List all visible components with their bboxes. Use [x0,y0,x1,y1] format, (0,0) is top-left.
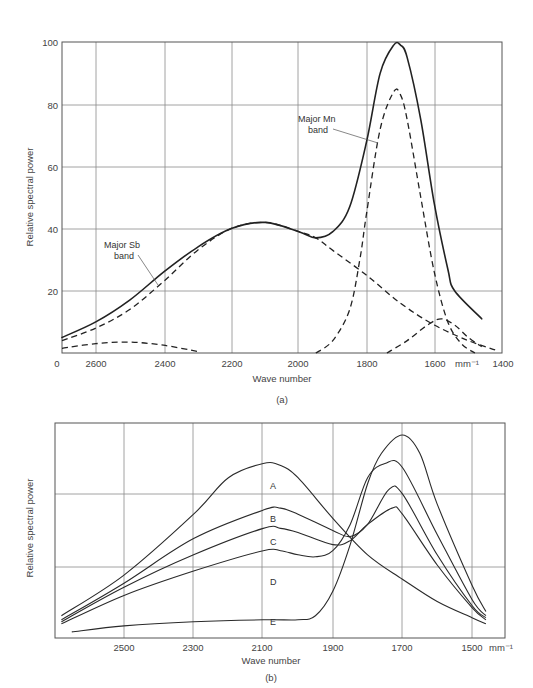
x-tick-1800: 1800 [356,358,377,369]
x-tick-2600: 2600 [85,358,106,369]
curve-label-e: E [270,617,276,627]
x-tick-2500: 2500 [113,642,134,653]
chart-b-grid [55,423,505,638]
sb-leader-line [138,255,158,285]
chart-a-series [62,42,495,353]
x-tick-1500: 1500 [461,642,482,653]
chart-b-ylabel: Relative spectral power [24,479,35,578]
curve-b [61,486,486,620]
series-minor-band-1580- [387,319,482,353]
figure-canvas: Major Sb band Major Mn band 100 80 60 40… [0,0,533,688]
chart-b-frame [55,423,505,638]
series-minor-band-low- [62,342,197,351]
x-tick-1700: 1700 [391,642,412,653]
chart-b-curve-labels: A B C D E [270,481,277,627]
x-unit-label-b: mm⁻¹ [489,642,513,653]
series-total-spectrum [62,42,482,337]
chart-a-ylabel: Relative spectral power [24,148,35,247]
chart-b-x-ticks: 2500 2300 2100 1900 1700 1500 mm⁻¹ [113,642,513,653]
chart-a-frame [62,42,502,353]
chart-a-x-ticks: 0 2600 2400 2200 2000 1800 1600 mm⁻¹ 140… [54,358,513,369]
chart-a-xlabel: Wave number [253,373,312,384]
curve-label-b: B [270,514,276,524]
x-tick-2200: 2200 [221,358,242,369]
chart-b-xlabel: Wave number [242,655,301,666]
y-tick-80: 80 [47,100,58,111]
x-tick-1900: 1900 [322,642,343,653]
curve-label-c: C [270,537,277,547]
x-tick-2000: 2000 [287,358,308,369]
mn-band-label: Major Mn [298,114,336,124]
curve-c [61,507,486,622]
chart-a-grid [62,42,502,353]
x-unit-label: mm⁻¹ [455,358,479,369]
chart-a: Major Sb band Major Mn band 100 80 60 40… [24,37,514,405]
x-tick-1600: 1600 [424,358,445,369]
chart-a-y-ticks: 100 80 60 40 20 [42,37,58,297]
chart-b-series [61,435,486,632]
series-major-mn-band [316,89,475,353]
curve-label-d: D [270,577,277,587]
x-origin-label: 0 [54,358,59,369]
x-tick-1400: 1400 [492,358,513,369]
chart-a-caption: (a) [276,394,288,405]
y-tick-60: 60 [47,162,58,173]
x-tick-2100: 2100 [251,642,272,653]
x-tick-2300: 2300 [182,642,203,653]
chart-b: A B C D E 2500 2300 2100 1900 1700 1500 … [24,423,513,683]
chart-b-caption: (b) [265,672,277,683]
mn-band-label-2: band [308,125,328,135]
y-tick-20: 20 [47,286,58,297]
mn-leader-line [333,129,378,143]
y-tick-100: 100 [42,37,58,48]
x-tick-2400: 2400 [154,358,175,369]
sb-band-label: Major Sb [104,240,140,250]
y-tick-40: 40 [47,224,58,235]
sb-band-label-2: band [114,251,134,261]
curve-label-a: A [270,481,276,491]
